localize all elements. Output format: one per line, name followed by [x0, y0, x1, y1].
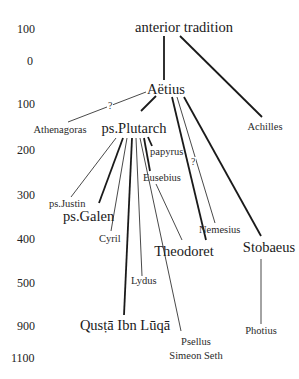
- node-simeon-seth: Simeon Seth: [169, 351, 222, 362]
- axis-tick-900: 900: [17, 320, 35, 332]
- node-eusebius: Eusebius: [143, 173, 181, 184]
- axis-tick-300: 300: [17, 189, 35, 201]
- axis-tick-500: 500: [17, 277, 35, 289]
- axis-tick-400: 400: [17, 233, 35, 245]
- node-lydus: Lydus: [131, 276, 157, 287]
- axis-tick-0: 0: [27, 55, 33, 67]
- uncertain-mark-athenagoras: ?: [107, 101, 113, 111]
- node-anterior-tradition: anterior tradition: [135, 20, 233, 35]
- axis-tick-100: 100: [17, 98, 35, 110]
- axis-tick-200: 200: [17, 144, 35, 156]
- node-cyril: Cyril: [99, 234, 121, 245]
- node-athenagoras: Athenagoras: [33, 125, 86, 136]
- node-papyrus: papyrus: [150, 147, 183, 158]
- node-aetius: Aëtius: [147, 82, 185, 97]
- axis-tick-100bc: 100: [17, 23, 35, 35]
- stemma-diagram: 100 0 100 200 300 400 500 900 1100 anter…: [0, 0, 299, 379]
- node-photius: Photius: [245, 326, 277, 337]
- node-achilles: Achilles: [248, 122, 283, 133]
- node-ps-plutarch: ps.Plutarch: [102, 121, 167, 136]
- node-qusta-ibn-luqa: Qusṭā Ibn Lūqā: [80, 318, 170, 333]
- node-theodoret: Theodoret: [154, 244, 214, 259]
- axis-tick-1100: 1100: [11, 352, 35, 364]
- node-stobaeus: Stobaeus: [243, 240, 295, 255]
- node-ps-galen: ps.Galen: [63, 209, 114, 224]
- node-nemesius: Nemesius: [199, 225, 240, 236]
- uncertain-mark-nemesius: ?: [190, 157, 196, 167]
- node-psellus: Psellus: [181, 337, 211, 348]
